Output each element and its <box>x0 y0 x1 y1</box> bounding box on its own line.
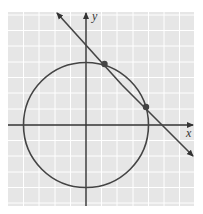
x-axis-label: x <box>185 126 192 140</box>
intersection-point-2 <box>143 104 149 110</box>
graph-canvas: x y <box>0 0 203 214</box>
y-axis-label: y <box>91 9 98 23</box>
intersection-point-1 <box>101 61 107 67</box>
